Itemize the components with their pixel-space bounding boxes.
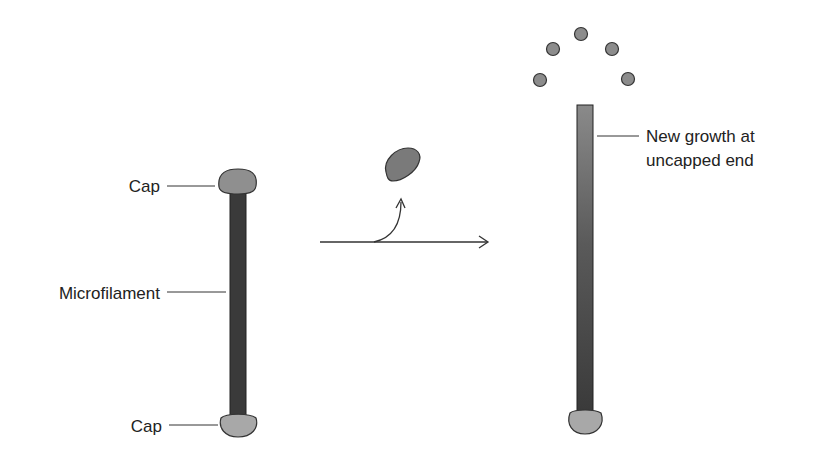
monomer-icon [575, 28, 588, 41]
label-microfilament: Microfilament [59, 284, 226, 303]
actin-monomers [534, 28, 635, 87]
monomer-icon [547, 43, 560, 56]
monomer-icon [534, 74, 547, 87]
label-bottom-cap: Cap [131, 417, 218, 436]
released-cap-icon [386, 148, 420, 181]
uncapped-microfilament [534, 28, 635, 435]
bottom-cap-label: Cap [131, 417, 162, 436]
microfilament-rod [230, 190, 246, 418]
new-growth-label-line2: uncapped end [646, 151, 754, 170]
microfilament-capping-diagram: Cap Microfilament Cap New growth at unca… [0, 0, 824, 458]
top-cap-icon [219, 169, 257, 194]
bottom-cap-icon [220, 414, 256, 437]
label-top-cap: Cap [129, 177, 215, 196]
growing-microfilament-rod [577, 105, 593, 413]
label-new-growth: New growth at uncapped end [597, 127, 755, 170]
monomer-icon [622, 73, 635, 86]
bottom-cap-right-icon [569, 410, 602, 434]
new-growth-label-line1: New growth at [646, 127, 755, 146]
cap-removal-transition [320, 148, 488, 248]
top-cap-label: Cap [129, 177, 160, 196]
capped-microfilament [219, 169, 257, 437]
microfilament-label: Microfilament [59, 284, 160, 303]
monomer-icon [606, 43, 619, 56]
cap-release-curve-arrow [374, 202, 401, 242]
